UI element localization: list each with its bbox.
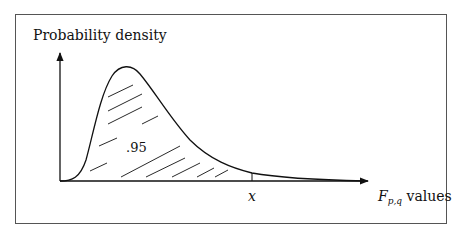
x-axis-label-suffix: values bbox=[402, 188, 452, 204]
y-axis-label: Probability density bbox=[33, 27, 167, 43]
area-label: .95 bbox=[126, 140, 147, 155]
critical-value-label: x bbox=[248, 188, 256, 204]
x-axis-label: Fp,q values bbox=[377, 188, 452, 206]
x-axis-label-sub: p,q bbox=[388, 196, 403, 206]
f-distribution-diagram: Probability density .95 x Fp,q values bbox=[0, 0, 463, 239]
